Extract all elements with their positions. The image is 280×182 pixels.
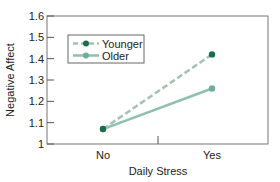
y-tick-label: 1.2: [29, 95, 44, 107]
line-chart: 11.11.21.31.41.51.6 No Yes Daily Stress …: [0, 0, 280, 182]
y-axis-title: Negative Affect: [4, 43, 16, 117]
series-line-younger: [103, 54, 212, 129]
data-point-younger-no: [100, 126, 106, 132]
legend: Younger Older: [68, 35, 144, 63]
y-tick-label: 1.1: [29, 117, 44, 129]
y-tick-label: 1.3: [29, 74, 44, 86]
legend-older-label: Older: [102, 50, 129, 62]
x-tick-label-no: No: [96, 149, 110, 161]
data-point-younger-yes: [209, 51, 215, 57]
y-tick-label: 1: [38, 138, 44, 150]
y-tick-label: 1.5: [29, 31, 44, 43]
legend-younger-marker-icon: [83, 41, 89, 47]
legend-older-marker-icon: [83, 53, 89, 59]
y-tick-label: 1.6: [29, 10, 44, 22]
x-axis-title: Daily Stress: [129, 165, 188, 177]
data-point-older-yes: [209, 85, 215, 91]
y-tick-label: 1.4: [29, 53, 44, 65]
series-line-older: [103, 89, 212, 130]
x-tick-label-yes: Yes: [203, 149, 221, 161]
y-axis-ticks: 11.11.21.31.41.51.6: [29, 10, 54, 150]
legend-younger-label: Younger: [102, 38, 143, 50]
